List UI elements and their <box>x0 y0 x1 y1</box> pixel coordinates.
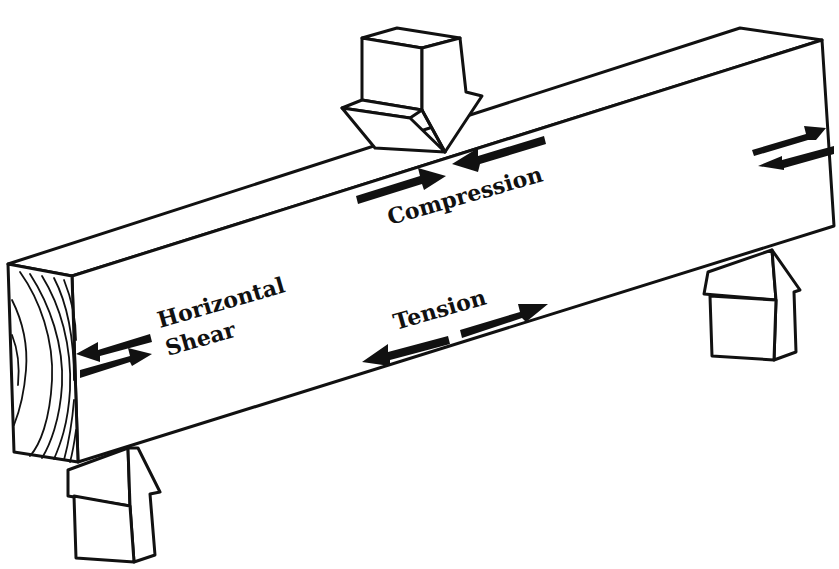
beam-stress-diagram: Compression Tension Horizontal Shear <box>0 0 839 569</box>
right-support-arrow-icon <box>704 250 800 360</box>
left-support-arrow-icon <box>68 448 160 562</box>
